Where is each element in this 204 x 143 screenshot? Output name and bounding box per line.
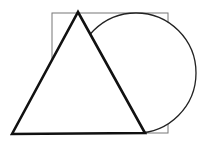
shapes-svg xyxy=(0,0,204,143)
diagram-canvas: Triangle overlapping a square and a circ… xyxy=(0,0,204,143)
